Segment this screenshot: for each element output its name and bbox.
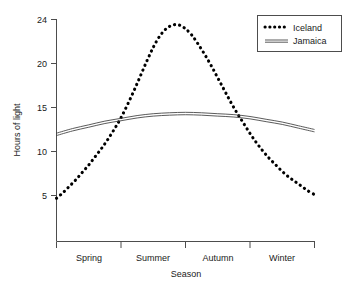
legend-label-iceland[interactable]: Iceland xyxy=(293,23,322,33)
y-tick-label-15: 15 xyxy=(37,103,47,113)
chart-container: 24 20 15 10 5 Spring Summer Autumn Winte… xyxy=(0,0,346,291)
legend-box xyxy=(258,16,342,52)
x-tick-label-summer: Summer xyxy=(136,253,170,263)
x-tick-label-winter: Winter xyxy=(269,253,295,263)
x-tick-label-spring: Spring xyxy=(76,253,102,263)
x-axis-title: Season xyxy=(171,269,202,279)
x-tick-label-autumn: Autumn xyxy=(202,253,233,263)
series-line-jamaica-upper xyxy=(57,112,315,133)
legend-label-jamaica[interactable]: Jamaica xyxy=(293,36,327,46)
line-chart: 24 20 15 10 5 Spring Summer Autumn Winte… xyxy=(0,0,346,291)
y-axis-ticks xyxy=(51,20,57,196)
y-tick-label-5: 5 xyxy=(42,191,47,201)
y-axis-title: Hours of light xyxy=(12,103,22,157)
series-line-jamaica-lower xyxy=(57,115,315,136)
x-axis-ticks xyxy=(57,242,315,249)
y-tick-label-10: 10 xyxy=(37,147,47,157)
y-tick-label-20: 20 xyxy=(37,59,47,69)
y-tick-label-24: 24 xyxy=(37,15,47,25)
legend[interactable]: Iceland Jamaica xyxy=(258,16,342,52)
